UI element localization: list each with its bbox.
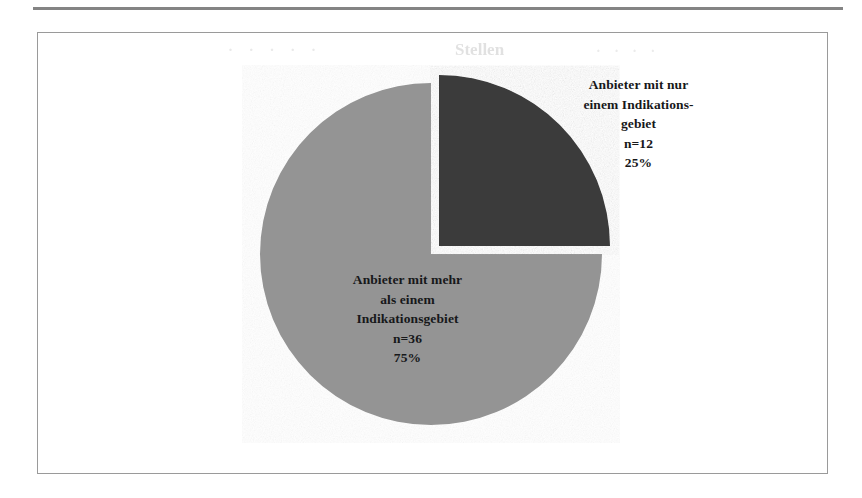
- pie-label-single-count: n=12: [531, 134, 746, 154]
- pie-label-multiple-indications: Anbieter mit mehr als einem Indikationsg…: [300, 270, 515, 368]
- pie-label-single-indication: Anbieter mit nur einem Indikations- gebi…: [531, 75, 746, 173]
- pie-label-multi-percent: 75%: [300, 348, 515, 368]
- page-top-rule: [33, 7, 843, 10]
- pie-label-single-line-2: einem Indikations-: [531, 95, 746, 115]
- pie-label-multi-count: n=36: [300, 329, 515, 349]
- pie-label-multi-line-1: Anbieter mit mehr: [300, 270, 515, 290]
- pie-label-single-percent: 25%: [531, 153, 746, 173]
- figure-frame: Anbieter mit nur einem Indikations- gebi…: [37, 32, 828, 474]
- pie-label-multi-line-3: Indikationsgebiet: [300, 309, 515, 329]
- pie-label-single-line-1: Anbieter mit nur: [531, 75, 746, 95]
- pie-label-single-line-3: gebiet: [531, 114, 746, 134]
- pie-label-multi-line-2: als einem: [300, 290, 515, 310]
